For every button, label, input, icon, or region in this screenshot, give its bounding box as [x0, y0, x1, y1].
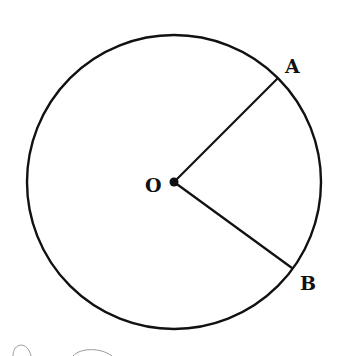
label-o: O [145, 174, 162, 196]
radius-ob [174, 182, 292, 268]
scan-artifact-arc-1 [13, 345, 31, 356]
label-a: A [284, 55, 300, 77]
label-b: B [300, 272, 316, 294]
diagram-canvas: O A B [0, 0, 346, 356]
scan-artifact-arc-2 [73, 350, 112, 356]
radius-oa [174, 78, 278, 182]
circle-diagram: O A B [0, 0, 346, 356]
center-point-o [170, 178, 179, 187]
